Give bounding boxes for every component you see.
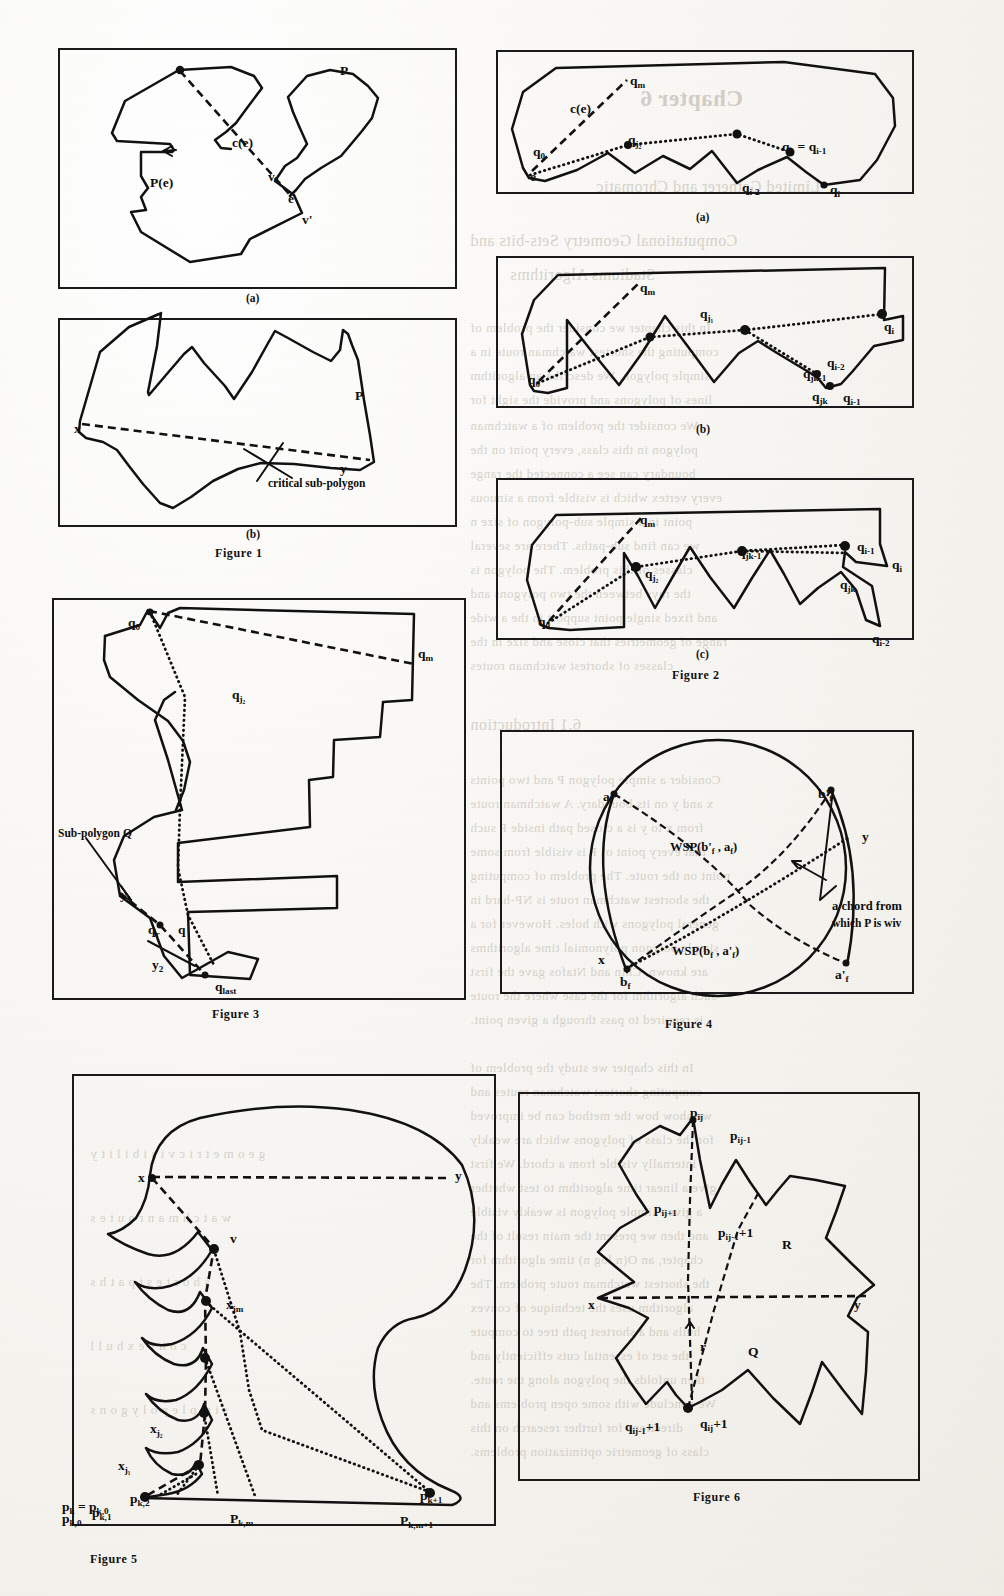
point-x: x — [74, 422, 81, 436]
vertex-q: q — [178, 923, 186, 937]
vertex-qm: qm — [640, 513, 655, 529]
point-x: x — [598, 953, 605, 967]
vertex-pij: pij — [690, 1106, 703, 1122]
vertex-qi-2: qi-2 — [742, 181, 760, 197]
wsp-upper: WSP(b'f , af) — [670, 841, 737, 855]
vertex-qm: qm — [630, 74, 645, 90]
vertex-q0: q0 — [538, 615, 550, 631]
vertex-qi-1: qi-1 — [843, 391, 861, 407]
wsp-lower: WSP(bf , a'f) — [672, 945, 739, 959]
figure-6-caption: Figure 6 — [693, 1490, 741, 1505]
vertex-af-prime: a'f — [835, 968, 849, 984]
vertex-qj2: qj₂ — [232, 688, 245, 704]
vertex-qjk-1: qjk-1 — [803, 367, 826, 383]
polygon-P: P — [340, 64, 348, 78]
vertex-q0: q0 — [528, 373, 540, 389]
vertex-q0: q0 — [533, 145, 545, 161]
vertex-qji-eq-qi-1: qjᵢ = qi-1 — [782, 140, 826, 156]
vertex-qj1: qj₁ — [700, 307, 713, 323]
vertex-qijplus1: qij+1 — [700, 1417, 728, 1433]
vertex-qr: qr — [148, 923, 160, 939]
vertex-qjk: qjk — [812, 390, 828, 406]
vertex-qjk-1: qjk-1 — [738, 545, 761, 561]
region-Q: Q — [748, 1345, 759, 1359]
vertex-xjm: xjm — [226, 1298, 243, 1314]
point-y: y — [455, 1169, 462, 1183]
vertex-qij-1plus1: qij-1+1 — [625, 1420, 660, 1436]
chord-annotation-line1: a chord from — [832, 900, 902, 913]
vertex-pk1: pk,1 — [92, 1506, 112, 1522]
vertex-qj2: qj₂ — [645, 567, 658, 583]
critical-sub-polygon: critical sub-polygon — [268, 478, 365, 490]
point-r: r — [700, 1340, 706, 1354]
region-R: R — [782, 1238, 792, 1252]
edge-e: e — [288, 192, 294, 206]
polygon-P: P — [355, 389, 363, 403]
chord-c-e: c(e) — [570, 102, 591, 116]
vertex-v-prime: v' — [302, 213, 313, 227]
edge-e: e — [530, 170, 536, 184]
vertex-pkm: Pk,m — [230, 1512, 253, 1528]
vertex-qi: qi — [892, 558, 902, 574]
pocket-P-e: P(e) — [150, 176, 173, 190]
vertex-af: af — [603, 790, 613, 806]
vertex-pk0: pk,0 — [62, 1512, 82, 1528]
vertex-pijplus1: pij+1 — [654, 1202, 677, 1218]
vertex-qi-2: qi-2 — [827, 356, 845, 372]
vertex-pij-minus1: pij-1 — [730, 1129, 751, 1145]
vertex-q0: q0 — [128, 616, 140, 632]
vertex-qi: qi — [830, 183, 840, 199]
sub-polygon-Q: Sub-polygon Q — [58, 828, 132, 840]
point-y1: y1 — [120, 888, 131, 904]
vertex-pkm1: Pk,m+1 — [400, 1514, 433, 1530]
vertex-bf-prime: b'f — [818, 787, 832, 803]
figure-6-drawing — [0, 0, 1004, 1596]
vertex-qi-1: qi-1 — [857, 540, 875, 556]
vertex-qlast: qlast — [215, 980, 236, 996]
vertex-pij-1plus1: pij-1+1 — [718, 1226, 753, 1242]
vertex-bf: bf — [620, 975, 631, 991]
point-y: y — [340, 462, 347, 476]
vertex-qi: qi — [884, 320, 894, 336]
vertex-qm: qm — [418, 647, 433, 663]
point-x: x — [588, 1298, 595, 1312]
chord-annotation-line2: which P is wiv — [832, 918, 901, 930]
vertex-pk1plus: pk+1 — [420, 1489, 442, 1505]
vertex-v: v — [268, 170, 275, 184]
vertex-qi-2: qi-2 — [872, 632, 890, 648]
point-y2: y2 — [152, 958, 163, 974]
vertex-pk2: pk,2 — [130, 1492, 150, 1508]
vertex-qm: qm — [640, 281, 655, 297]
vertex-xj2: xj₂ — [150, 1422, 163, 1438]
vertex-qj2: qj₂ — [628, 133, 641, 149]
point-x: x — [138, 1171, 145, 1185]
vertex-qjk: qjk — [840, 578, 856, 594]
document-page: Chapter 6Limited Gatherer and ChromaticC… — [0, 0, 1004, 1596]
point-y: y — [862, 830, 869, 844]
vertex-xj1: xj₁ — [118, 1459, 131, 1475]
vertex-v: v — [230, 1232, 237, 1246]
point-y: y — [854, 1298, 861, 1312]
chord-c-e: c(e) — [232, 136, 253, 150]
